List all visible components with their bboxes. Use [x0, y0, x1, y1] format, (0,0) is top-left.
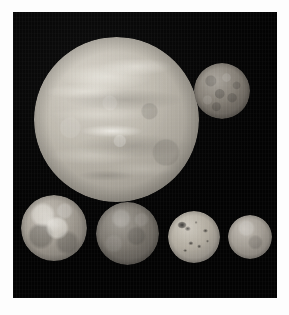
europa-disc — [228, 215, 272, 259]
moon-ganymede — [21, 195, 87, 261]
callisto-disc — [194, 63, 250, 119]
moon-europa — [228, 215, 272, 259]
moon-callisto — [194, 63, 250, 119]
moon-europa-dark — [96, 202, 159, 265]
moon-io — [168, 211, 220, 263]
europa-dark-disc — [96, 202, 159, 265]
planet-jupiter — [34, 37, 199, 202]
photo-frame — [0, 0, 289, 315]
ganymede-disc — [21, 195, 87, 261]
jupiter-disc — [34, 37, 199, 202]
io-disc — [168, 211, 220, 263]
space-background — [13, 12, 277, 298]
